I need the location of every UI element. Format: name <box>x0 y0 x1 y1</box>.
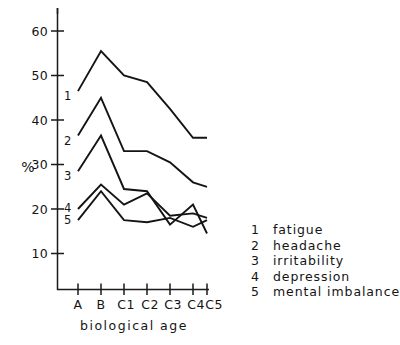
x-tick-label-b: B <box>97 297 106 312</box>
x-tick-label-c4: C4 <box>187 297 204 312</box>
y-axis-label: % <box>21 159 34 175</box>
legend-label: depression <box>273 269 350 285</box>
x-tick-label-a: A <box>74 297 83 312</box>
series-tag-2: 2 <box>64 134 71 148</box>
x-tick-labels: A B C1 C2 C3 C4 C5 <box>74 297 223 312</box>
legend-item-depression: 4 depression <box>251 269 396 285</box>
legend-key: 1 <box>251 222 273 238</box>
legend-key: 2 <box>251 238 273 254</box>
series-inline-tags: 1 2 3 4 5 <box>64 89 71 227</box>
legend-label: mental imbalance <box>273 284 400 300</box>
y-tick-label: 50 <box>31 68 48 83</box>
series-line-depression <box>78 185 207 218</box>
series-tag-3: 3 <box>64 169 71 183</box>
x-tick-label-c5: C5 <box>205 297 222 312</box>
legend-key: 3 <box>251 253 273 269</box>
legend-key: 4 <box>251 269 273 285</box>
x-tick-label-c3: C3 <box>164 297 181 312</box>
legend-label: fatigue <box>273 222 323 238</box>
legend-label: irritability <box>273 253 344 269</box>
legend-item-irritability: 3 irritability <box>251 253 396 269</box>
legend-item-fatigue: 1 fatigue <box>251 222 396 238</box>
legend-label: headache <box>273 238 342 254</box>
y-tick-label: 60 <box>31 24 48 39</box>
y-tick-label: 20 <box>31 202 48 217</box>
y-tick-label: 10 <box>31 246 48 261</box>
x-axis-title: biological age <box>80 318 188 333</box>
legend-key: 5 <box>251 284 273 300</box>
x-tick-label-c1: C1 <box>117 297 134 312</box>
legend-item-mental-imbalance: 5 mental imbalance <box>251 284 396 300</box>
x-tick-label-c2: C2 <box>141 297 158 312</box>
series-tag-1: 1 <box>64 89 71 103</box>
y-tick-label: 40 <box>31 113 48 128</box>
series-line-fatigue <box>78 51 207 138</box>
y-tick-labels: 60 50 40 30 20 10 <box>31 24 48 262</box>
legend-item-headache: 2 headache <box>251 238 396 254</box>
series-lines <box>78 51 207 234</box>
chart-legend: 1 fatigue 2 headache 3 irritability 4 de… <box>251 222 396 300</box>
series-tag-5: 5 <box>64 213 71 227</box>
